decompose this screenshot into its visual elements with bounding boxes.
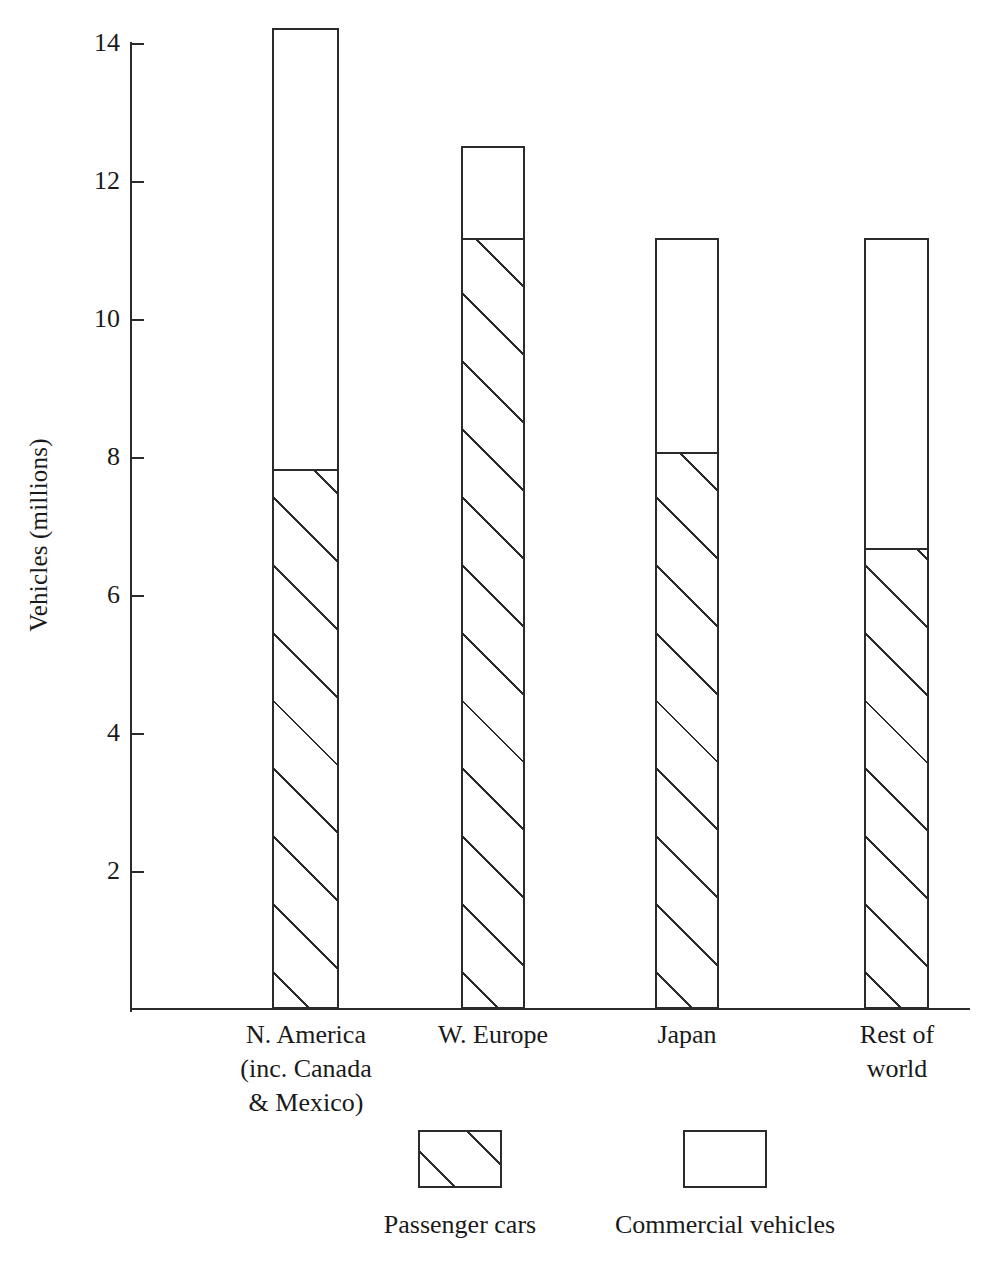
bar-segment-commercial-vehicles[interactable]	[864, 238, 929, 550]
y-tick-8	[131, 457, 144, 459]
y-tick-label-2: 2	[80, 858, 120, 884]
y-tick-2	[131, 871, 144, 873]
bar-group-japan	[655, 0, 719, 1008]
bar-segment-commercial-vehicles[interactable]	[655, 238, 719, 454]
y-tick-14	[131, 43, 144, 45]
bar-group-rest-of-world	[864, 0, 929, 1008]
y-tick-6	[131, 595, 144, 597]
y-tick-4	[131, 733, 144, 735]
bar-segment-commercial-vehicles[interactable]	[272, 28, 339, 471]
legend-label-commercial-vehicles: Commercial vehicles	[595, 1210, 855, 1240]
legend-swatch-commercial-vehicles	[683, 1130, 767, 1188]
bar-group-n-america	[272, 0, 339, 1008]
bar-segment-passenger-cars[interactable]	[655, 452, 719, 1009]
bar-segment-passenger-cars[interactable]	[272, 469, 339, 1009]
y-tick-label-10: 10	[80, 306, 120, 332]
legend-label-passenger-cars: Passenger cars	[340, 1210, 580, 1240]
chart-legend: Passenger cars Commercial vehicles	[0, 1126, 1005, 1256]
y-tick-label-8: 8	[80, 444, 120, 470]
x-axis-label-japan: Japan	[567, 1018, 807, 1052]
y-tick-label-6: 6	[80, 582, 120, 608]
y-tick-10	[131, 319, 144, 321]
y-tick-label-12: 12	[80, 168, 120, 194]
y-tick-12	[131, 181, 144, 183]
x-axis-line	[130, 1008, 970, 1010]
y-tick-label-14: 14	[80, 30, 120, 56]
legend-swatch-passenger-cars	[418, 1130, 502, 1188]
y-tick-label-4: 4	[80, 720, 120, 746]
y-axis-title: Vehicles (millions)	[24, 325, 54, 745]
bar-segment-commercial-vehicles[interactable]	[461, 146, 525, 240]
bar-segment-passenger-cars[interactable]	[461, 238, 525, 1009]
y-axis-line	[130, 42, 132, 1012]
x-axis-label-rest-of-world: Rest of world	[777, 1018, 1005, 1086]
bar-group-w-europe	[461, 0, 525, 1008]
stacked-bar-chart: Vehicles (millions) 14 12 10 8 6 4 2	[0, 0, 1005, 1263]
bar-segment-passenger-cars[interactable]	[864, 548, 929, 1009]
